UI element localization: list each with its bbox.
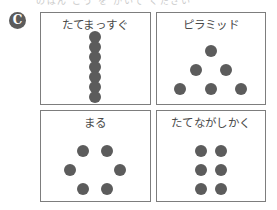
section-marker-c: C (9, 12, 26, 29)
pattern-dot (215, 183, 227, 195)
pattern-dot (77, 145, 89, 157)
panel-grid: たてまっすぐ ピラミッド まる たてながしかく (40, 12, 266, 202)
panel-tatenaga-shikaku[interactable]: たてながしかく (156, 110, 267, 203)
dot-field-circle (41, 111, 150, 202)
pattern-dot (195, 164, 207, 176)
pattern-dot (190, 64, 202, 76)
pattern-dot (205, 45, 217, 57)
pattern-dot (235, 83, 247, 95)
panel-maru[interactable]: まる (40, 110, 151, 203)
dot-field-pyramid (157, 13, 266, 104)
pattern-dot (101, 145, 113, 157)
pattern-dot (195, 145, 207, 157)
pattern-dot (205, 83, 217, 95)
worksheet-sheet: C たてまっすぐ ピラミッド まる たてながしかく (0, 0, 277, 210)
pattern-dot (215, 145, 227, 157)
dot-field-vertical-rectangle (157, 111, 266, 202)
pattern-dot (174, 83, 186, 95)
pattern-dot (77, 183, 89, 195)
panel-tate-massugu[interactable]: たてまっすぐ (40, 12, 151, 105)
pattern-dot (64, 164, 76, 176)
dot-field-vertical-line (41, 13, 150, 104)
pattern-dot (114, 164, 126, 176)
pattern-dot (89, 91, 101, 103)
pattern-dot (195, 183, 207, 195)
panel-piramiddo[interactable]: ピラミッド (156, 12, 267, 105)
pattern-dot (215, 164, 227, 176)
pattern-dot (101, 183, 113, 195)
pattern-dot (220, 64, 232, 76)
